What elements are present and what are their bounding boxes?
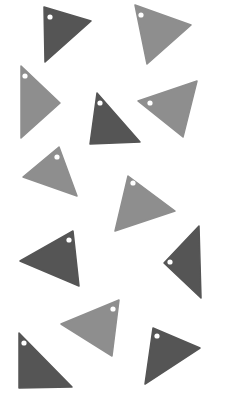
punch-hole-icon bbox=[138, 12, 143, 17]
punch-hole-icon bbox=[167, 259, 172, 264]
punch-hole-icon bbox=[21, 340, 26, 345]
punch-hole-icon bbox=[54, 154, 59, 159]
punch-hole-icon bbox=[66, 237, 71, 242]
triangle-tags-canvas bbox=[0, 0, 231, 393]
punch-hole-icon bbox=[130, 180, 135, 185]
punch-hole-icon bbox=[154, 333, 159, 338]
punch-hole-icon bbox=[110, 306, 115, 311]
punch-hole-icon bbox=[47, 14, 52, 19]
triangle-tags-illustration bbox=[0, 0, 231, 393]
punch-hole-icon bbox=[97, 100, 102, 105]
background bbox=[0, 0, 231, 393]
punch-hole-icon bbox=[147, 100, 152, 105]
punch-hole-icon bbox=[22, 73, 27, 78]
